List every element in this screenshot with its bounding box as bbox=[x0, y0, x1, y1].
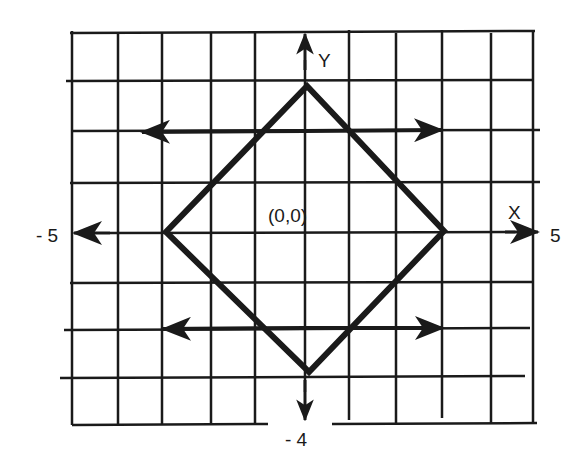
lower-left-arrow bbox=[163, 328, 305, 329]
origin-label: (0,0) bbox=[268, 205, 307, 226]
y-min-label: - 4 bbox=[285, 429, 308, 450]
upper-left-arrow bbox=[142, 131, 305, 132]
y-axis-label: Y bbox=[318, 50, 331, 71]
x-min-label: - 5 bbox=[36, 225, 58, 246]
x-max-label: 5 bbox=[550, 225, 561, 246]
x-axis-label: X bbox=[508, 202, 521, 223]
upper-right-arrow bbox=[305, 130, 442, 131]
coordinate-grid-diagram: Y X (0,0) - 5 5 - 4 bbox=[0, 0, 582, 472]
